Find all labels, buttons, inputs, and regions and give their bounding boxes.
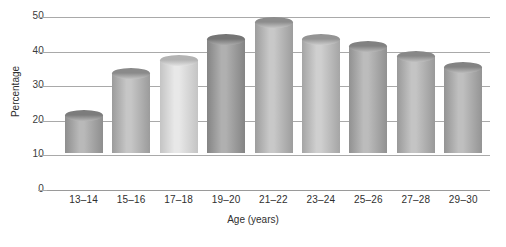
bar-top-ellipse xyxy=(65,110,103,121)
bar xyxy=(65,115,103,153)
bar xyxy=(397,56,435,153)
bar-top-ellipse xyxy=(160,55,198,66)
bar-body xyxy=(397,56,435,153)
bar-body xyxy=(112,73,150,153)
bar-body xyxy=(302,39,340,153)
x-tick-label: 21–22 xyxy=(250,194,297,205)
bar xyxy=(255,22,293,153)
bar-top-ellipse xyxy=(302,34,340,45)
x-tick-label: 15–16 xyxy=(107,194,154,205)
bar xyxy=(160,60,198,153)
x-tick-label: 23–24 xyxy=(297,194,344,205)
bar-body xyxy=(207,39,245,153)
x-tick-label: 19–20 xyxy=(202,194,249,205)
x-tick-label: 13–14 xyxy=(60,194,107,205)
bar-top-ellipse xyxy=(397,51,435,62)
x-tick-label: 17–18 xyxy=(155,194,202,205)
bar-top-ellipse xyxy=(255,17,293,28)
plot-area: 01020304050 xyxy=(0,0,506,210)
bar-chart: 01020304050 Percentage 13–1415–1617–1819… xyxy=(0,0,506,247)
x-axis-title: Age (years) xyxy=(0,214,506,225)
bar xyxy=(112,73,150,153)
bar-top-ellipse xyxy=(444,62,482,73)
bars-layer xyxy=(0,0,506,210)
y-axis-title: Percentage xyxy=(10,47,21,137)
bar-body xyxy=(444,67,482,154)
bar xyxy=(349,46,387,153)
bar-body xyxy=(349,46,387,153)
bar xyxy=(302,39,340,153)
bar xyxy=(207,39,245,153)
bar-top-ellipse xyxy=(207,34,245,45)
x-tick-label: 27–28 xyxy=(392,194,439,205)
x-tick-label: 29–30 xyxy=(440,194,487,205)
bar-body xyxy=(255,22,293,153)
bar xyxy=(444,67,482,154)
bar-body xyxy=(160,60,198,153)
bar-top-ellipse xyxy=(349,41,387,52)
x-axis-tick-labels: 13–1415–1617–1819–2021–2223–2425–2627–28… xyxy=(0,194,506,214)
x-tick-label: 25–26 xyxy=(345,194,392,205)
